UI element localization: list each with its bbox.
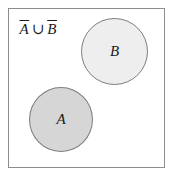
set-circle-a: A bbox=[29, 87, 93, 152]
venn-diagram-figure: A∪B B A bbox=[0, 0, 174, 179]
set-circle-b: B bbox=[81, 18, 148, 85]
set-label-b: B bbox=[110, 44, 119, 59]
union-operator-symbol: ∪ bbox=[30, 21, 47, 37]
set-label-a: A bbox=[56, 112, 65, 127]
set-expression-label: A∪B bbox=[19, 21, 57, 38]
expression-right-operand: B bbox=[47, 21, 58, 37]
expression-left-operand: A bbox=[19, 21, 30, 37]
